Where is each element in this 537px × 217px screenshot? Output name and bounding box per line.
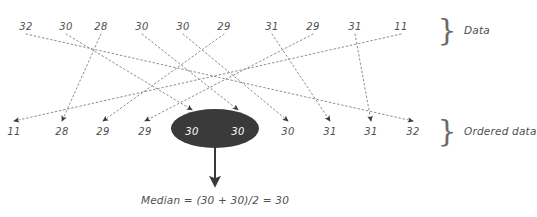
ordered-value: 11	[7, 126, 20, 137]
median-ellipse	[171, 109, 259, 148]
data-value: 11	[394, 21, 407, 32]
ordered-value-median: 30	[231, 126, 244, 137]
data-value: 29	[217, 21, 230, 32]
data-brace-icon: }	[437, 15, 456, 45]
ordered-value: 29	[138, 126, 151, 137]
median-result-text: Median = (30 + 30)/2 = 30	[141, 194, 289, 206]
ordered-value: 30	[281, 126, 294, 137]
data-row-label: Data	[464, 24, 490, 36]
ordered-value-median: 30	[185, 126, 198, 137]
data-value: 31	[348, 21, 361, 32]
data-value: 31	[265, 21, 278, 32]
ordered-value: 31	[323, 126, 336, 137]
data-value: 30	[176, 21, 189, 32]
data-value: 30	[59, 21, 72, 32]
ordered-value: 31	[364, 126, 377, 137]
data-value: 29	[306, 21, 319, 32]
ordered-value: 28	[55, 126, 68, 137]
ordered-value: 29	[96, 126, 109, 137]
data-value: 32	[19, 21, 32, 32]
data-value: 30	[135, 21, 148, 32]
ordered-row-label: Ordered data	[464, 125, 537, 137]
ordered-value: 32	[406, 126, 419, 137]
ordered-brace-icon: }	[437, 116, 456, 146]
data-value: 28	[94, 21, 107, 32]
